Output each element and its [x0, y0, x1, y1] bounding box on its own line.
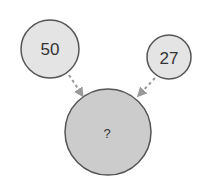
- edge-right-to-result: [139, 78, 155, 95]
- node-left-label: 50: [41, 40, 60, 59]
- node-right-label: 27: [160, 49, 179, 68]
- node-right: 27: [147, 35, 191, 79]
- node-result: ?: [65, 89, 151, 175]
- node-result-label: ?: [103, 126, 110, 141]
- node-left: 50: [21, 20, 79, 78]
- diagram-canvas: 50 27 ?: [0, 0, 205, 185]
- edge-left-to-result: [69, 75, 82, 95]
